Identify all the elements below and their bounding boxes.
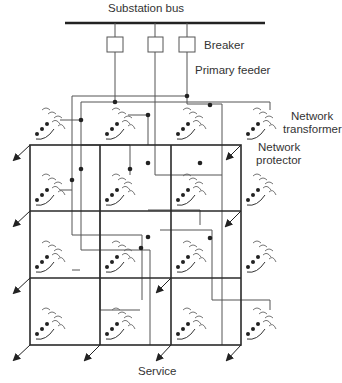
network-protector-label-2: protector — [256, 154, 301, 167]
network-diagram — [0, 0, 342, 383]
primary-feeder-label: Primary feeder — [195, 64, 270, 77]
breaker-label: Breaker — [204, 39, 244, 52]
breaker-3 — [179, 37, 195, 52]
substation-bus-label: Substation bus — [108, 2, 184, 15]
network-protector-label-1: Network — [258, 141, 300, 154]
network-transformer-label-1: Network — [291, 110, 333, 123]
service-label: Service — [138, 365, 176, 378]
network-transformer-label-2: transformer — [283, 123, 342, 136]
breaker-1 — [107, 37, 123, 52]
breaker-2 — [148, 37, 163, 52]
